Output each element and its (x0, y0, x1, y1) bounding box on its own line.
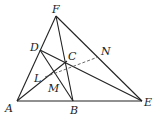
label-E: E (143, 96, 152, 109)
point-labels: FDCNLMABE (4, 3, 152, 117)
segments (17, 16, 142, 101)
label-L: L (33, 72, 41, 85)
label-B: B (69, 104, 78, 117)
geometry-diagram: FDCNLMABE (0, 0, 160, 121)
label-A: A (4, 102, 13, 115)
label-N: N (100, 45, 111, 58)
label-M: M (47, 82, 60, 95)
label-C: C (68, 50, 77, 63)
label-D: D (29, 41, 39, 54)
label-F: F (51, 3, 60, 16)
